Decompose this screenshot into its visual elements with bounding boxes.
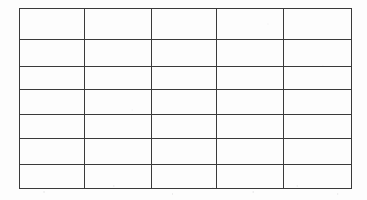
table-cell[interactable] (152, 67, 217, 90)
table-cell[interactable] (85, 139, 152, 165)
table-cell[interactable] (152, 139, 217, 165)
table-cell[interactable] (217, 115, 284, 139)
table-cell[interactable] (152, 9, 217, 40)
table-cell[interactable] (85, 40, 152, 67)
table-row (20, 67, 352, 90)
table-cell[interactable] (85, 67, 152, 90)
table-cell[interactable] (152, 115, 217, 139)
table-cell[interactable] (217, 67, 284, 90)
table-cell[interactable] (284, 40, 352, 67)
table-cell[interactable] (217, 40, 284, 67)
table-body (20, 9, 352, 189)
table-cell[interactable] (284, 9, 352, 40)
table-cell[interactable] (217, 165, 284, 189)
empty-grid-table[interactable] (19, 8, 352, 189)
table-cell[interactable] (284, 90, 352, 115)
page-canvas (0, 0, 367, 200)
table-row (20, 165, 352, 189)
table-cell[interactable] (85, 90, 152, 115)
table-cell[interactable] (217, 139, 284, 165)
table-cell[interactable] (217, 90, 284, 115)
table-cell[interactable] (85, 115, 152, 139)
table-cell[interactable] (20, 165, 85, 189)
table-cell[interactable] (20, 9, 85, 40)
table-cell[interactable] (20, 139, 85, 165)
table-cell[interactable] (85, 165, 152, 189)
table-cell[interactable] (20, 90, 85, 115)
table-cell[interactable] (284, 139, 352, 165)
table-row (20, 40, 352, 67)
table-cell[interactable] (20, 67, 85, 90)
table-cell[interactable] (152, 90, 217, 115)
table-cell[interactable] (152, 165, 217, 189)
table-cell[interactable] (284, 115, 352, 139)
table-cell[interactable] (284, 165, 352, 189)
table-cell[interactable] (20, 115, 85, 139)
table-row (20, 115, 352, 139)
table-row (20, 90, 352, 115)
table-row (20, 9, 352, 40)
table-cell[interactable] (152, 40, 217, 67)
table-cell[interactable] (20, 40, 85, 67)
table-row (20, 139, 352, 165)
table-cell[interactable] (284, 67, 352, 90)
table-cell[interactable] (217, 9, 284, 40)
table-cell[interactable] (85, 9, 152, 40)
